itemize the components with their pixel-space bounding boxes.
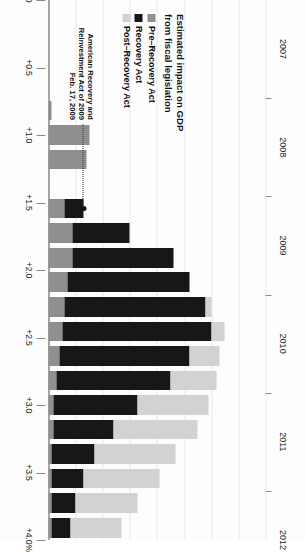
- bar-segment-post: [113, 420, 197, 440]
- y-tick-label: +3.5: [23, 464, 33, 481]
- y-tick-mark: [36, 135, 45, 136]
- x-tick-mark: [265, 295, 271, 296]
- legend-label-act: Recovery Act: [134, 26, 144, 83]
- y-tick-mark: [36, 270, 45, 271]
- annotation-line1: American Recovery and: [85, 8, 94, 120]
- bar-segment-pre: [48, 322, 62, 342]
- bar-segment-pre: [48, 223, 72, 243]
- chart-title-line1: Estimated impact on GDP: [174, 14, 186, 131]
- bar-stack: [48, 493, 138, 513]
- legend-swatch-act-icon: [135, 14, 143, 22]
- y-tick-label: +1.0: [23, 127, 33, 144]
- legend: Estimated impact on GDP from fiscal legi…: [121, 14, 185, 131]
- bar-segment-act: [51, 469, 84, 489]
- bar-segment-post: [170, 371, 216, 391]
- bar-segment-pre: [48, 101, 51, 121]
- y-tick-mark: [36, 473, 45, 474]
- legend-label-pre: Pre–Recovery Act: [146, 26, 156, 103]
- y-tick-mark: [36, 338, 45, 339]
- bar-stack: [48, 469, 159, 489]
- bar-stack: [48, 223, 129, 243]
- bar-segment-pre: [48, 420, 53, 440]
- legend-swatch-pre-icon: [147, 14, 155, 22]
- legend-item-post: Post–Recovery Act: [121, 14, 131, 131]
- bar-segment-act: [72, 223, 129, 243]
- bar-segment-post: [70, 518, 122, 538]
- x-tick-label-2008: 2008: [277, 137, 287, 157]
- gridline: [238, 0, 239, 540]
- legend-swatch-post-icon: [122, 14, 130, 22]
- legend-item-pre: Pre–Recovery Act: [146, 14, 156, 131]
- bar-stack: [48, 297, 211, 317]
- y-tick-mark: [36, 0, 45, 1]
- x-tick-mark: [265, 393, 271, 394]
- bar-stack: [48, 101, 51, 121]
- annotation-line3: Feb. 17, 2009: [67, 8, 77, 120]
- annotation-leader-line: [81, 124, 83, 207]
- bar-segment-pre: [48, 346, 59, 366]
- bar-segment-act: [51, 518, 70, 538]
- bar-stack: [48, 518, 121, 538]
- bar-segment-post: [138, 395, 209, 415]
- bar-stack: [48, 199, 83, 219]
- y-tick-label: +1.5: [23, 194, 33, 211]
- bar-segment-post: [75, 493, 137, 513]
- bar-segment-act: [53, 420, 113, 440]
- bar-segment-post: [211, 322, 225, 342]
- legend-label-post: Post–Recovery Act: [121, 26, 131, 108]
- y-tick-label: 0: [23, 0, 33, 2]
- x-tick-label-2011: 2011: [277, 432, 287, 451]
- bar-segment-pre: [48, 199, 64, 219]
- bar-segment-post: [205, 297, 210, 317]
- bar-stack: [48, 272, 189, 292]
- y-tick-mark: [36, 405, 45, 406]
- bar-segment-act: [72, 248, 172, 268]
- annotation-target-dot: [81, 206, 86, 211]
- bar-stack: [48, 420, 197, 440]
- bar-segment-pre: [48, 248, 72, 268]
- bar-segment-act: [51, 493, 75, 513]
- y-tick-mark: [36, 68, 45, 69]
- bar-stack: [48, 346, 219, 366]
- bar-segment-act: [59, 346, 189, 366]
- bar-stack: [48, 322, 224, 342]
- bar-stack: [48, 371, 216, 391]
- y-tick-label: +2.0: [23, 262, 33, 279]
- gridline: [211, 0, 212, 540]
- bar-segment-post: [83, 469, 159, 489]
- x-tick-label-2009: 2009: [277, 235, 287, 255]
- bar-stack: [48, 150, 86, 170]
- x-tick-label-2007: 2007: [277, 39, 287, 59]
- annotation-line2: Reinvestment Act of 2009: [76, 8, 85, 120]
- bar-segment-act: [64, 199, 83, 219]
- bar-segment-act: [53, 395, 137, 415]
- bar-segment-post: [189, 346, 219, 366]
- bar-segment-pre: [48, 297, 64, 317]
- bar-stack: [48, 444, 175, 464]
- y-tick-label: +0.5: [23, 59, 33, 76]
- bar-segment-act: [67, 272, 189, 292]
- bar-segment-act: [64, 297, 205, 317]
- y-tick-mark: [36, 203, 45, 204]
- x-tick-mark: [265, 491, 271, 492]
- legend-item-act: Recovery Act: [134, 14, 144, 131]
- y-tick-label: +4.0%: [23, 528, 33, 552]
- x-tick-mark: [265, 98, 271, 99]
- gridline: [265, 0, 266, 540]
- y-tick-label: +3.0: [23, 397, 33, 414]
- chart-title: Estimated impact on GDP from fiscal legi…: [162, 14, 185, 131]
- bar-stack: [48, 248, 173, 268]
- y-tick-mark: [36, 540, 45, 541]
- bar-segment-pre: [48, 395, 53, 415]
- chart-title-line2: from fiscal legislation: [162, 14, 174, 131]
- legend-items: Pre–Recovery ActRecovery ActPost–Recover…: [121, 14, 156, 131]
- annotation-label: American Recovery and Reinvestment Act o…: [67, 8, 95, 120]
- bar-segment-pre: [48, 150, 86, 170]
- bar-segment-pre: [48, 272, 67, 292]
- bar-segment-act: [62, 322, 211, 342]
- bar-segment-pre: [48, 371, 56, 391]
- bar-segment-act: [51, 444, 94, 464]
- x-tick-label-2012: 2012: [277, 530, 287, 550]
- x-tick-label-2010: 2010: [277, 334, 287, 354]
